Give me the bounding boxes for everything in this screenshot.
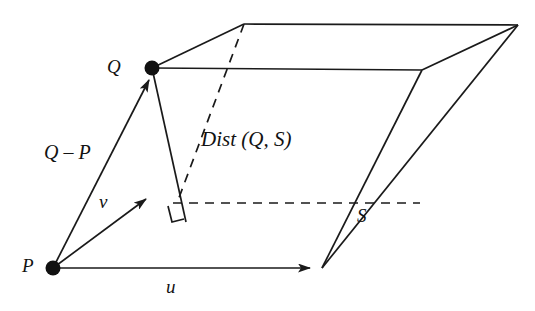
point-q-marker	[145, 61, 160, 76]
label-plane-s: S	[357, 206, 367, 225]
label-vector-u: u	[166, 277, 176, 296]
label-distance: Dist (Q, S)	[201, 129, 291, 150]
label-point-p: P	[22, 256, 34, 275]
label-vector-v: v	[99, 192, 107, 211]
label-vector-q-minus-p: Q – P	[44, 142, 91, 162]
point-p-marker	[46, 261, 61, 276]
plane-edge-nearright-to-base-right	[322, 70, 422, 268]
label-point-q: Q	[107, 57, 121, 76]
hidden-construction-lines	[173, 24, 420, 203]
right-angle-marker	[168, 206, 184, 222]
plane-edge-farleft-to-farright	[244, 24, 518, 25]
plane-edge-nearright-to-q	[152, 68, 422, 70]
vector-q-minus-p	[53, 80, 149, 268]
geometry-figure: Q P Q – P v u Dist (Q, S) S	[0, 0, 535, 311]
perpendicular-segment-q-to-foot	[152, 68, 186, 222]
plane-edge-farright-to-nearright	[422, 25, 518, 70]
plane-edge-farright-to-base-right	[322, 25, 518, 268]
